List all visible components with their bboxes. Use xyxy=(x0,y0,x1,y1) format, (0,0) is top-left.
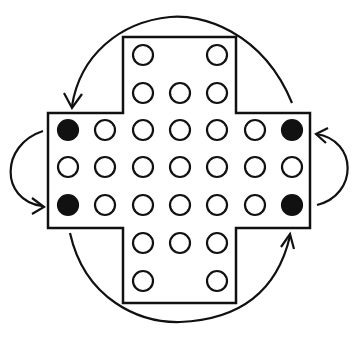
empty-hole xyxy=(58,157,78,177)
empty-hole xyxy=(245,195,265,215)
peg xyxy=(58,120,78,140)
empty-hole xyxy=(95,195,115,215)
empty-hole xyxy=(133,271,153,291)
empty-hole xyxy=(170,157,190,177)
peg xyxy=(282,120,302,140)
empty-hole xyxy=(170,83,190,103)
empty-hole xyxy=(133,157,153,177)
empty-hole xyxy=(245,157,265,177)
left-arc-arrow xyxy=(11,131,44,214)
empty-hole xyxy=(133,233,153,253)
empty-hole xyxy=(207,83,227,103)
arrow-arc xyxy=(316,134,348,205)
empty-hole xyxy=(207,157,227,177)
empty-hole xyxy=(207,45,227,65)
peg xyxy=(58,195,78,215)
empty-hole xyxy=(207,233,227,253)
empty-hole xyxy=(95,157,115,177)
empty-hole xyxy=(207,271,227,291)
empty-hole xyxy=(245,120,265,140)
empty-hole xyxy=(170,120,190,140)
holes-group xyxy=(58,45,302,291)
empty-hole xyxy=(282,157,302,177)
empty-hole xyxy=(133,83,153,103)
diagram-canvas xyxy=(0,0,360,337)
right-arc-arrow xyxy=(316,128,348,205)
empty-hole xyxy=(207,195,227,215)
empty-hole xyxy=(207,120,227,140)
empty-hole xyxy=(170,195,190,215)
empty-hole xyxy=(133,45,153,65)
peg xyxy=(282,195,302,215)
empty-hole xyxy=(133,195,153,215)
empty-hole xyxy=(95,120,115,140)
arrow-arc xyxy=(11,131,43,206)
peg-solitaire-diagram xyxy=(0,0,360,337)
empty-hole xyxy=(170,233,190,253)
empty-hole xyxy=(133,120,153,140)
